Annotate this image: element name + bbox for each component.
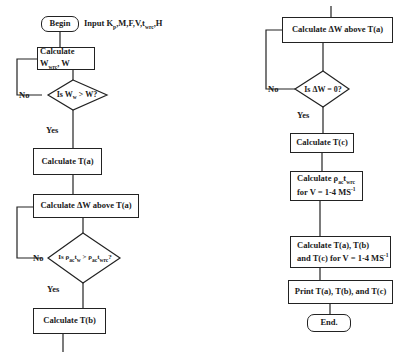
begin-terminal: Begin [41,16,79,32]
decision-3-label: Is ΔW = 0? [304,85,342,94]
decision-2-no-label: No [33,253,43,263]
decision-1-label: Is Ww > W? [57,90,98,101]
calculate-ta-process: Calculate T(a) [33,148,102,175]
calculate-tc-process: Calculate T(c) [290,133,354,153]
calculate-tb-process: Calculate T(b) [33,308,106,334]
decision-2-yes-label: Yes [47,284,59,294]
end-terminal: End. [307,314,351,332]
calculate-w-process: Calculate Wwrc, W [37,47,95,70]
print-process: Print T(a), T(b), and T(c) [288,280,393,304]
decision-1-no-label: No [19,90,29,100]
calculate-dw-process-right: Calculate ΔW above T(a) [282,17,393,43]
calculate-w-label: Calculate Wwrc, W [40,46,94,71]
decision-3-no-label: No [268,84,278,94]
decision-3-yes-label: Yes [297,110,309,120]
begin-label: Begin [50,18,71,29]
calculate-rho-process: Calculate ρactwrcfor V = 1-4 MS-1 [290,171,363,201]
input-label: Input Kp,M,F,V,twrc,H [84,18,162,30]
calculate-dw-process-left: Calculate ΔW above T(a) [33,194,139,218]
decision-2-label: Is ρactw > ρactwrc? [58,253,112,262]
decision-1-yes-label: Yes [46,125,58,135]
calculate-all-process: Calculate T(a), T(b)and T(c) for V = 1-4… [290,236,391,268]
